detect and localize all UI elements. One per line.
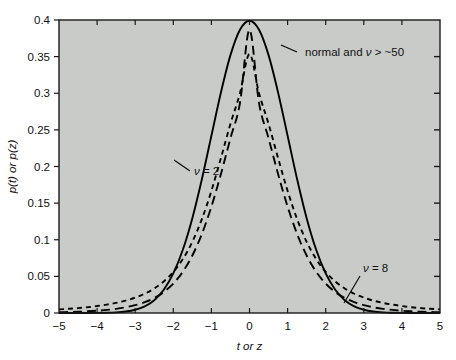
x-tick-label: −1 [205,320,218,332]
annotation-normal: normal and ν > ~50 [305,46,404,58]
x-tick-label: 4 [399,320,406,332]
y-tick-label: 0.3 [34,87,50,99]
y-axis-title: p(t) or p(z) [6,139,18,194]
x-tick-label: −3 [129,320,142,332]
distribution-chart: −5−4−3−2−1012345 00.050.10.150.20.250.30… [0,0,456,360]
figure-container: −5−4−3−2−1012345 00.050.10.150.20.250.30… [0,0,456,360]
x-tick-label: −5 [52,320,65,332]
x-tick-label: 0 [246,320,252,332]
x-axis-title: t or z [237,340,263,352]
x-tick-label: 5 [437,320,443,332]
y-tick-label: 0.1 [34,234,50,246]
y-tick-label: 0.2 [34,161,50,173]
y-tick-label: 0 [44,307,50,319]
y-tick-label: 0.15 [28,197,50,209]
x-tick-label: −4 [91,320,105,332]
y-tick-label: 0.05 [28,270,50,282]
x-tick-label: 1 [284,320,290,332]
annotation-nu2: ν = 2 [194,165,219,177]
x-tick-label: −2 [167,320,180,332]
y-tick-label: 0.4 [34,14,51,26]
y-tick-label: 0.25 [28,124,50,136]
x-tick-label: 2 [322,320,328,332]
annotation-nu8: ν = 8 [363,262,388,274]
x-tick-label: 3 [361,320,367,332]
y-tick-label: 0.35 [28,51,50,63]
